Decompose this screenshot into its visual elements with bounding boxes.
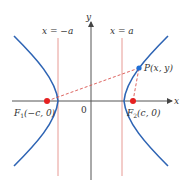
label-x-a: x = a (110, 26, 134, 36)
point-p (136, 65, 141, 70)
x-axis-label: x (174, 96, 179, 106)
label-f2: F2(c, 0) (126, 108, 161, 119)
origin-label: 0 (81, 105, 87, 115)
f1-coords: (−c, 0) (24, 108, 56, 118)
hyperbola-diagram: y x 0 x = −a x = a P(x, y) F1(−c, 0) F2(… (0, 0, 186, 182)
focus-f2 (130, 98, 136, 104)
label-point-p: P(x, y) (143, 63, 173, 73)
diagram-canvas: y x 0 x = −a x = a P(x, y) F1(−c, 0) F2(… (0, 0, 186, 182)
label-x-minus-a: x = −a (42, 26, 73, 36)
f2-coords: (c, 0) (137, 108, 161, 118)
y-axis-label: y (85, 12, 92, 22)
focus-f1 (44, 98, 50, 104)
label-f1: F1(−c, 0) (13, 108, 56, 119)
